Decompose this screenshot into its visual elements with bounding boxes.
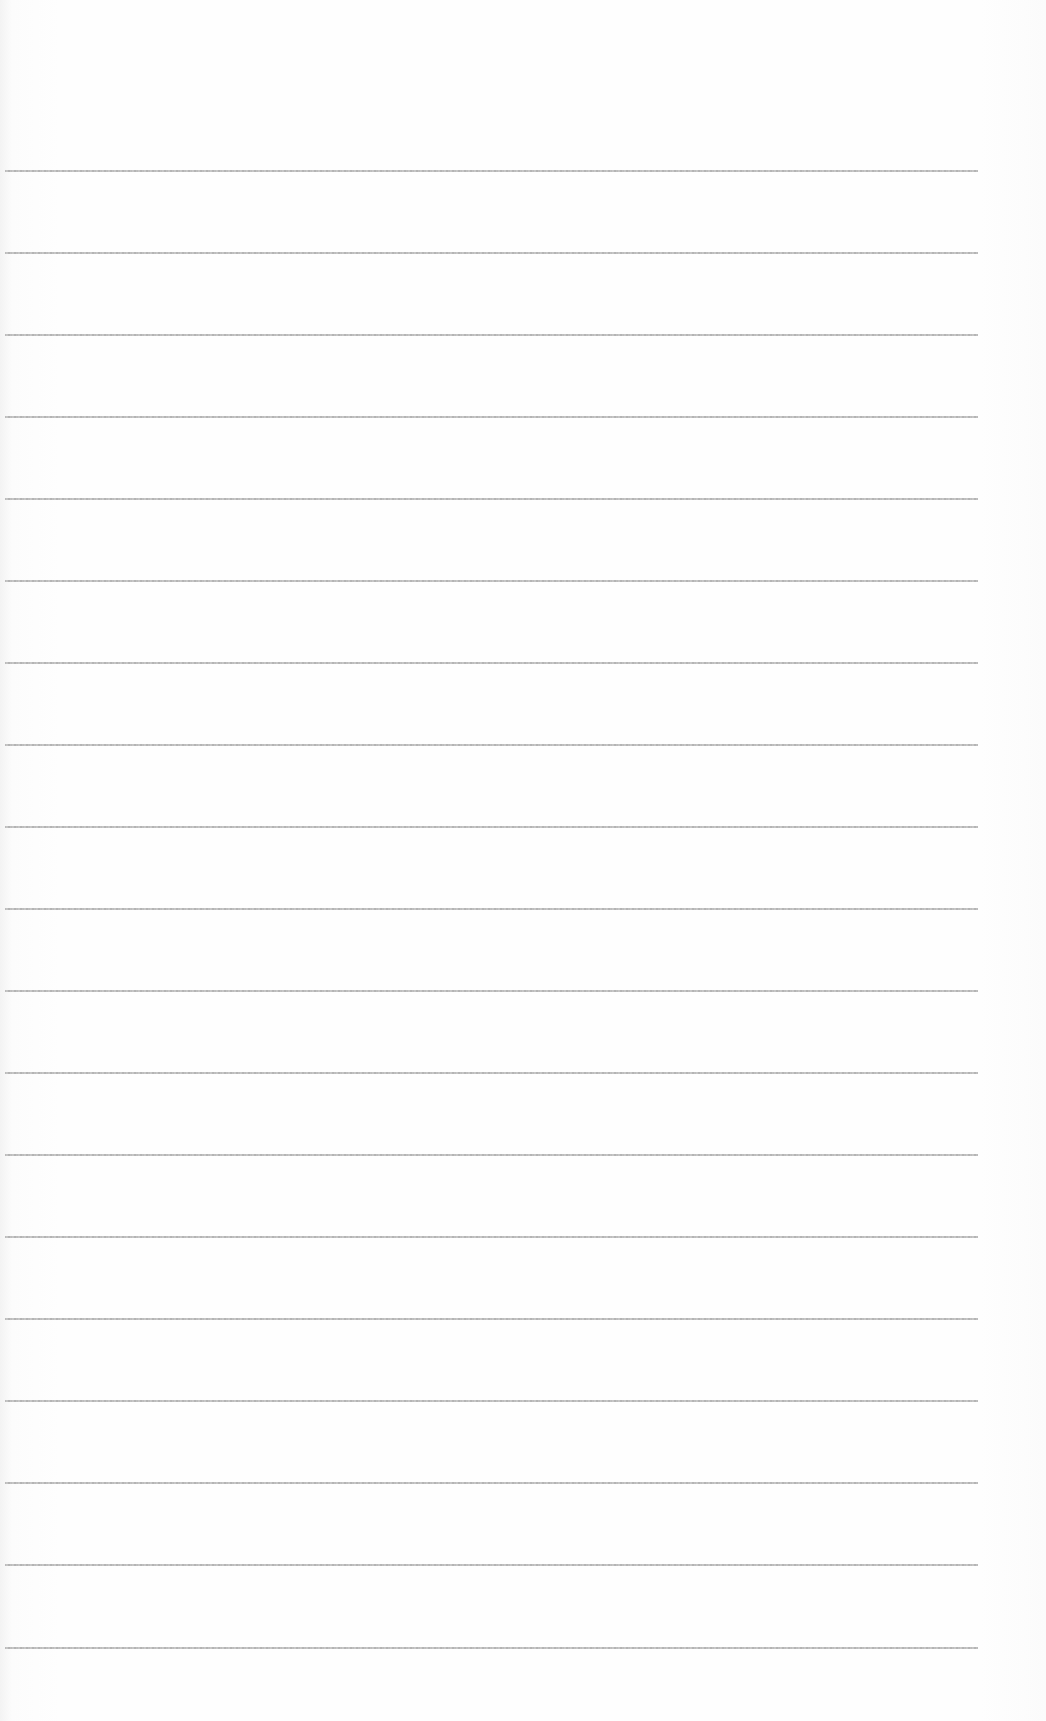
ruled-line <box>5 580 978 582</box>
ruled-line <box>5 744 978 746</box>
ruled-line <box>5 416 978 418</box>
ruled-line <box>5 826 978 828</box>
ruled-line <box>5 1072 978 1074</box>
ruled-line <box>5 990 978 992</box>
ruled-line <box>5 252 978 254</box>
ruled-line <box>5 908 978 910</box>
ruled-line <box>5 1318 978 1320</box>
ruled-line <box>5 1400 978 1402</box>
ruled-line <box>5 1482 978 1484</box>
lined-paper-page <box>0 0 1046 1721</box>
ruled-line <box>5 498 978 500</box>
ruled-line <box>5 1236 978 1238</box>
ruled-line <box>5 1154 978 1156</box>
ruled-line <box>5 334 978 336</box>
ruled-line <box>5 170 978 172</box>
ruled-line <box>5 1647 978 1649</box>
ruled-line <box>5 662 978 664</box>
ruled-line <box>5 1564 978 1566</box>
